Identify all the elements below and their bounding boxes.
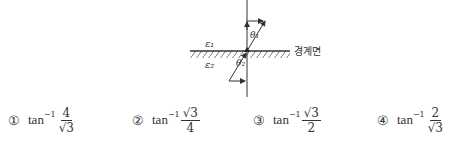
denominator: √3 [426,121,445,135]
denominator: 2 [306,121,318,135]
choice-3[interactable]: ③ tan −1 √3 2 [253,100,321,140]
numerator: √3 [181,106,200,121]
fraction: 2 √3 [426,106,445,135]
exponent: −1 [289,110,301,119]
func-name: tan [152,112,168,128]
fraction: √3 4 [181,106,200,135]
func-name: tan [28,112,44,128]
choice-2[interactable]: ② tan −1 √3 4 [132,100,200,140]
choice-1[interactable]: ① tan −1 4 √3 [8,100,76,140]
fraction: 4 √3 [57,106,76,135]
interface-label: 경계면 [294,45,321,57]
fraction: √3 2 [302,106,321,135]
choice-number: ① [8,113,20,128]
numerator: 2 [430,106,442,121]
func-name: tan [397,112,413,128]
medium-2-hatch [190,51,290,58]
choice-number: ③ [253,113,265,128]
exponent: −1 [168,110,180,119]
denominator: √3 [57,121,76,135]
numerator: 4 [61,106,73,121]
denominator: 4 [185,121,197,135]
numerator: √3 [302,106,321,121]
choice-number: ④ [377,113,389,128]
angle-2-label: θ₂ [236,58,245,68]
medium-2-label: ε₂ [205,59,214,70]
func-name: tan [273,112,289,128]
medium-1-label: ε₁ [205,38,214,49]
angle-1-label: θ₁ [250,30,259,40]
refraction-diagram: ε₁ ε₂ θ₁ θ₂ 경계면 [0,0,451,100]
choice-4[interactable]: ④ tan −1 2 √3 [377,100,445,140]
exponent: −1 [413,110,425,119]
choice-number: ② [132,113,144,128]
exponent: −1 [44,110,56,119]
